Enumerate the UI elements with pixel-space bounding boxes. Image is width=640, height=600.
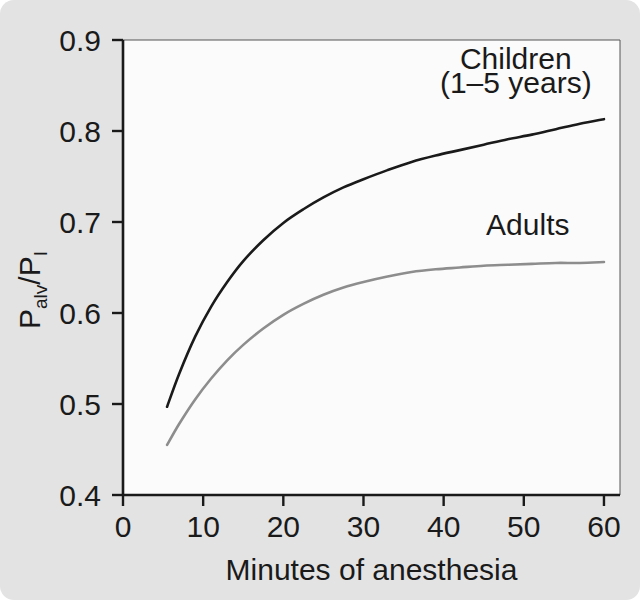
series-annotation-label: (1–5 years) bbox=[440, 66, 592, 99]
y-tick-label: 0.7 bbox=[59, 206, 101, 239]
y-tick-label: 0.5 bbox=[59, 388, 101, 421]
y-tick-label: 0.4 bbox=[59, 479, 101, 512]
y-tick-label: 0.6 bbox=[59, 297, 101, 330]
x-tick-label: 30 bbox=[347, 510, 380, 543]
x-tick-label: 50 bbox=[507, 510, 540, 543]
y-tick-label: 0.9 bbox=[59, 24, 101, 57]
line-chart: 0.40.50.60.70.80.90102030405060Minutes o… bbox=[0, 0, 640, 600]
x-tick-label: 10 bbox=[186, 510, 219, 543]
y-tick-label: 0.8 bbox=[59, 115, 101, 148]
y-axis-title: Palv/PI bbox=[13, 251, 51, 329]
series-annotation-label: Adults bbox=[486, 208, 569, 241]
plot-area-background bbox=[123, 40, 620, 495]
x-tick-label: 60 bbox=[587, 510, 620, 543]
x-tick-label: 20 bbox=[267, 510, 300, 543]
y-axis-title-text: Palv/PI bbox=[13, 251, 51, 329]
x-axis-title: Minutes of anesthesia bbox=[226, 553, 518, 586]
x-tick-label: 40 bbox=[427, 510, 460, 543]
figure-root: 0.40.50.60.70.80.90102030405060Minutes o… bbox=[0, 0, 640, 600]
x-tick-label: 0 bbox=[115, 510, 132, 543]
